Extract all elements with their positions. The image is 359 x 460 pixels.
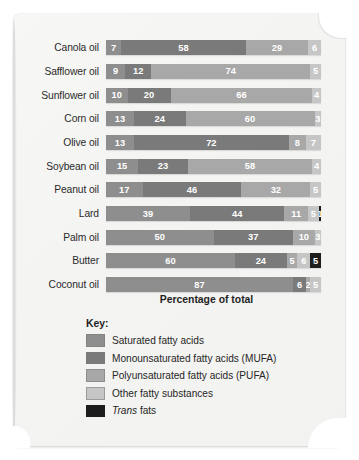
- bar-segment-pufa: 8: [289, 135, 306, 150]
- bar-segment-other: 5: [310, 277, 321, 292]
- row-label-soybean-oil: Soybean oil: [14, 161, 106, 172]
- legend-swatch-mufa: [86, 352, 105, 365]
- stacked-bar: 1020664: [106, 88, 321, 103]
- bar-segment-mufa: 58: [121, 40, 246, 55]
- bar-segment-sat: 60: [106, 253, 235, 268]
- bar-segment-sat: 9: [106, 64, 125, 79]
- stacked-bar: 912745: [106, 64, 321, 79]
- bar-segment-pufa: 10: [293, 230, 315, 245]
- chart-row: Palm oil5037103: [14, 228, 345, 248]
- bar-segment-mufa: 72: [134, 135, 289, 150]
- bar-segment-sat: 87: [106, 277, 293, 292]
- stacked-bar: 1746325: [106, 182, 321, 197]
- chart-row: Lard39441151: [14, 204, 345, 224]
- row-label-butter: Butter: [14, 255, 106, 266]
- legend-swatch-pufa: [86, 369, 105, 382]
- legend-label-mufa: Monounsaturated fatty acids (MUFA): [112, 353, 276, 364]
- bar-segment-pufa: 29: [246, 40, 308, 55]
- stacked-bar: 758296: [106, 40, 321, 55]
- chart-row: Sunflower oil1020664: [14, 85, 345, 105]
- legend-label-other: Other fatty substances: [112, 388, 213, 399]
- bar-segment-pufa: 60: [186, 111, 315, 126]
- stacked-bar: 39441151: [106, 206, 321, 221]
- stacked-bar: 137287: [106, 135, 321, 150]
- bar-segment-mufa: 12: [125, 64, 151, 79]
- bar-segment-pufa: 32: [241, 182, 310, 197]
- scanned-page-sheet: Canola oil758296Safflower oil912745Sunfl…: [14, 14, 345, 446]
- stacked-bar: 5037103: [106, 230, 321, 245]
- bar-segment-mufa: 24: [134, 111, 186, 126]
- bar-segment-pufa: 74: [151, 64, 310, 79]
- bar-segment-pufa: 58: [188, 159, 313, 174]
- stacked-bar: 87625: [106, 277, 321, 292]
- legend-item-sat: Saturated fatty acids: [86, 333, 336, 348]
- bar-segment-other: 4: [312, 88, 321, 103]
- legend-swatch-other: [86, 387, 105, 400]
- stacked-bar: 6024565: [106, 253, 321, 268]
- bar-segment-sat: 10: [106, 88, 128, 103]
- bar-segment-other: 3: [315, 230, 321, 245]
- bar-segment-trans: 5: [310, 253, 321, 268]
- row-label-canola-oil: Canola oil: [14, 42, 106, 53]
- bar-segment-sat: 13: [106, 111, 134, 126]
- bar-segment-other: 5: [310, 64, 321, 79]
- bar-segment-mufa: 20: [128, 88, 171, 103]
- x-axis-label: Percentage of total: [99, 294, 314, 305]
- bar-segment-other: 7: [306, 135, 321, 150]
- bar-segment-other: 4: [312, 159, 321, 174]
- chart-row: Safflower oil912745: [14, 62, 345, 82]
- row-label-palm-oil: Palm oil: [14, 232, 106, 243]
- bar-segment-other: 6: [308, 40, 321, 55]
- bar-segment-sat: 7: [106, 40, 121, 55]
- bar-segment-pufa: 66: [171, 88, 313, 103]
- row-label-corn-oil: Corn oil: [14, 113, 106, 124]
- legend-swatch-sat: [86, 334, 105, 347]
- bar-segment-mufa: 37: [214, 230, 294, 245]
- row-label-olive-oil: Olive oil: [14, 137, 106, 148]
- row-label-coconut-oil: Coconut oil: [14, 279, 106, 290]
- bar-segment-mufa: 46: [143, 182, 242, 197]
- legend-swatch-trans: [86, 405, 105, 418]
- bar-segment-mufa: 6: [293, 277, 306, 292]
- legend-items: Saturated fatty acidsMonounsaturated fat…: [86, 333, 336, 418]
- bar-segment-mufa: 44: [190, 206, 285, 221]
- legend-item-mufa: Monounsaturated fatty acids (MUFA): [86, 351, 336, 366]
- page-canvas: Canola oil758296Safflower oil912745Sunfl…: [0, 0, 359, 460]
- bar-segment-trans: 1: [319, 206, 321, 221]
- legend-label-sat: Saturated fatty acids: [112, 335, 204, 346]
- legend-label-pufa: Polyunsaturated fatty acids (PUFA): [112, 370, 269, 381]
- chart-row: Peanut oil1746325: [14, 180, 345, 200]
- bar-segment-mufa: 24: [235, 253, 287, 268]
- bar-segment-sat: 50: [106, 230, 214, 245]
- bar-segment-other: 5: [308, 206, 319, 221]
- chart-row: Corn oil1324603: [14, 109, 345, 129]
- bar-segment-sat: 13: [106, 135, 134, 150]
- bar-segment-other: 3: [315, 111, 321, 126]
- row-label-safflower-oil: Safflower oil: [14, 66, 106, 77]
- stacked-bar: 1324603: [106, 111, 321, 126]
- chart-row: Olive oil137287: [14, 133, 345, 153]
- legend-label-text: fats: [140, 405, 156, 416]
- row-label-lard: Lard: [14, 208, 106, 219]
- chart-row: Canola oil758296: [14, 38, 345, 58]
- bar-segment-mufa: 23: [138, 159, 187, 174]
- chart-row: Soybean oil1523584: [14, 156, 345, 176]
- bar-segment-sat: 17: [106, 182, 143, 197]
- legend-item-trans: Trans fats: [86, 403, 336, 418]
- chart-row: Butter6024565: [14, 251, 345, 271]
- legend-item-pufa: Polyunsaturated fatty acids (PUFA): [86, 368, 336, 383]
- legend-title: Key:: [86, 318, 336, 329]
- legend-label-italic-prefix: Trans: [112, 405, 137, 416]
- bar-segment-other: 6: [297, 253, 310, 268]
- bar-segment-pufa: 11: [284, 206, 308, 221]
- chart-rows: Canola oil758296Safflower oil912745Sunfl…: [14, 38, 345, 299]
- row-label-peanut-oil: Peanut oil: [14, 184, 106, 195]
- chart-legend: Key: Saturated fatty acidsMonounsaturate…: [86, 318, 336, 421]
- legend-label-trans: Trans fats: [112, 405, 156, 416]
- bar-segment-sat: 15: [106, 159, 138, 174]
- stacked-bar: 1523584: [106, 159, 321, 174]
- chart-row: Coconut oil87625: [14, 275, 345, 295]
- row-label-sunflower-oil: Sunflower oil: [14, 90, 106, 101]
- bar-segment-other: 5: [310, 182, 321, 197]
- legend-item-other: Other fatty substances: [86, 386, 336, 401]
